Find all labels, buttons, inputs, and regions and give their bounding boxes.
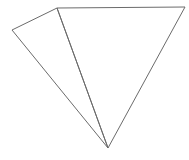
left-triangle: [12, 8, 108, 148]
triangles-diagram: [0, 0, 189, 160]
diagram-canvas: [0, 0, 189, 160]
right-triangle: [57, 7, 185, 148]
